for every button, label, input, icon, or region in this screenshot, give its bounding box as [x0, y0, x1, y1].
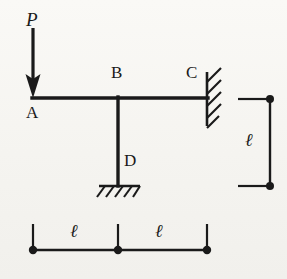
load-label-P: P	[26, 10, 38, 29]
node-label-C: C	[186, 64, 197, 81]
hdim-dot-mid	[114, 246, 122, 254]
vdim-dot-bottom	[266, 182, 274, 190]
vdim-dot-top	[266, 95, 274, 103]
horizontal-dimension	[29, 224, 211, 254]
hdim-dot-left	[29, 246, 37, 254]
horizontal-dimension-label-right: ℓ	[155, 222, 163, 240]
vertical-dimension	[238, 95, 274, 190]
hdim-dot-right	[203, 246, 211, 254]
diagram-root: P A B C D ℓ ℓ ℓ	[0, 0, 287, 279]
horizontal-dimension-label-left: ℓ	[70, 222, 78, 240]
vertical-dimension-label: ℓ	[245, 131, 253, 149]
node-label-A: A	[26, 104, 38, 121]
load-arrow-P	[26, 28, 41, 98]
frame-diagram-svg	[0, 0, 287, 279]
node-label-B: B	[111, 64, 122, 81]
node-label-D: D	[124, 152, 136, 169]
